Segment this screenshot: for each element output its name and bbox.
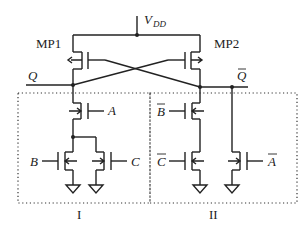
q-label: Q <box>28 68 38 83</box>
circuit-schematic: V DD MP1 MP2 Q <box>0 0 307 228</box>
input-a-bar-label: A <box>267 154 276 169</box>
cross-coupling <box>73 60 200 87</box>
vdd-supply: V DD <box>73 12 200 37</box>
q-bar-label: Q <box>237 68 247 83</box>
mp2-label: MP2 <box>214 36 239 51</box>
block-i-label: I <box>77 207 81 222</box>
ground-icon <box>66 185 80 193</box>
block-ii-label: II <box>209 207 218 222</box>
input-b-label: B <box>30 154 38 169</box>
ground-icon <box>193 185 207 193</box>
input-a-label: A <box>107 103 116 118</box>
transistor-mp2: MP2 <box>168 35 239 87</box>
input-b-bar-label: B <box>157 104 165 119</box>
ground-icon <box>89 185 103 193</box>
node-q-bar: Q <box>198 68 248 89</box>
block-i: A B C I <box>30 85 140 222</box>
block-i-boundary <box>18 93 150 203</box>
vdd-subscript: DD <box>152 19 166 29</box>
transistor-mp1: MP1 <box>36 35 105 85</box>
mp2-arrow-icon <box>191 57 202 63</box>
input-c-bar-label: C <box>157 154 166 169</box>
input-c-label: C <box>131 154 140 169</box>
mp1-label: MP1 <box>36 36 61 51</box>
ground-icon <box>225 185 239 193</box>
mp1-arrow-icon <box>68 57 82 63</box>
block-ii-boundary <box>150 93 297 203</box>
node-q: Q <box>26 68 75 87</box>
block-ii: B C A II <box>157 87 277 222</box>
